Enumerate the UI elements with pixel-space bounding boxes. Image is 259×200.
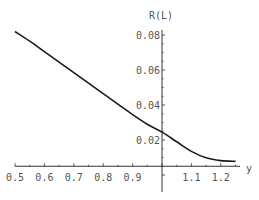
- x-tick-label: 0.8: [94, 172, 112, 183]
- y-tick-label: 0.02: [136, 135, 160, 146]
- x-tick-label: 0.6: [35, 172, 53, 183]
- x-tick-label: 1.2: [212, 172, 230, 183]
- y-tick-label: 0.04: [136, 100, 160, 111]
- x-axis: 0.50.60.70.80.91.11.2: [6, 163, 240, 183]
- line-chart: 0.50.60.70.80.91.11.2 0.020.040.060.08 y…: [0, 0, 259, 200]
- series-line: [15, 32, 236, 162]
- x-tick-label: 1.1: [182, 172, 200, 183]
- x-tick-label: 0.5: [6, 172, 24, 183]
- x-tick-label: 0.7: [65, 172, 83, 183]
- x-tick-label: 0.9: [124, 172, 142, 183]
- y-tick-label: 0.08: [136, 30, 160, 41]
- x-axis-label: y: [246, 163, 252, 174]
- y-axis: 0.020.040.060.08: [136, 30, 165, 192]
- y-axis-label: R(L): [149, 10, 173, 21]
- y-tick-label: 0.06: [136, 65, 160, 76]
